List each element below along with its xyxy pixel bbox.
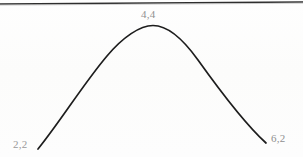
parabola-curve bbox=[38, 26, 266, 150]
parabola-plot bbox=[0, 0, 303, 157]
vertex-point-label: 4,4 bbox=[141, 8, 155, 20]
right-endpoint-label: 6,2 bbox=[271, 132, 285, 144]
left-endpoint-label: 2,2 bbox=[13, 138, 27, 150]
figure-container: 4,4 2,2 6,2 bbox=[0, 0, 303, 157]
